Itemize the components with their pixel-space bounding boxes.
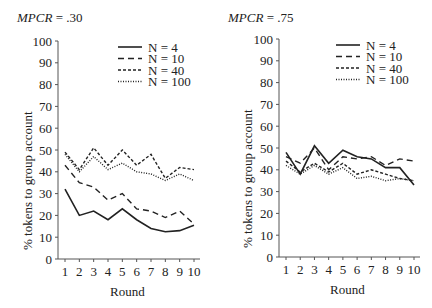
series-line bbox=[65, 189, 194, 232]
y-axis-title: % tokens to group account bbox=[20, 111, 36, 250]
y-tick-label: 40 bbox=[39, 164, 52, 179]
y-tick-label: 0 bbox=[267, 250, 274, 265]
x-tick-label: 3 bbox=[311, 262, 318, 277]
chart-panel-mpcr-75: MPCR = .75 01020304050607080901001234567… bbox=[216, 0, 432, 308]
x-tick-label: 5 bbox=[119, 264, 126, 279]
x-tick-label: 4 bbox=[105, 264, 112, 279]
y-tick-label: 60 bbox=[260, 119, 273, 134]
y-tick-label: 80 bbox=[260, 75, 273, 90]
x-tick-label: 10 bbox=[188, 264, 201, 279]
y-tick-label: 50 bbox=[260, 141, 273, 156]
y-tick-label: 0 bbox=[46, 252, 53, 267]
y-tick-label: 50 bbox=[39, 143, 52, 158]
x-tick-label: 6 bbox=[133, 264, 140, 279]
y-tick-label: 100 bbox=[33, 34, 53, 49]
y-tick-label: 90 bbox=[39, 55, 52, 70]
y-tick-label: 10 bbox=[39, 230, 52, 245]
series-line bbox=[286, 148, 414, 170]
x-tick-label: 3 bbox=[90, 264, 97, 279]
x-axis-title: Round bbox=[110, 284, 145, 300]
x-tick-label: 8 bbox=[162, 264, 169, 279]
y-tick-label: 20 bbox=[39, 208, 52, 223]
series-line bbox=[65, 154, 194, 180]
y-tick-label: 60 bbox=[39, 121, 52, 136]
y-tick-label: 100 bbox=[254, 32, 274, 47]
x-tick-label: 5 bbox=[340, 262, 347, 277]
series-group bbox=[65, 148, 194, 232]
x-tick-label: 4 bbox=[325, 262, 332, 277]
x-tick-label: 8 bbox=[382, 262, 389, 277]
y-tick-label: 70 bbox=[39, 99, 52, 114]
x-tick-label: 1 bbox=[283, 262, 290, 277]
x-tick-label: 9 bbox=[397, 262, 404, 277]
x-tick-label: 10 bbox=[408, 262, 421, 277]
x-tick-label: 7 bbox=[148, 264, 155, 279]
series-group bbox=[286, 146, 414, 185]
series-line bbox=[65, 148, 194, 179]
y-tick-label: 40 bbox=[260, 162, 273, 177]
y-tick-label: 10 bbox=[260, 228, 273, 243]
y-tick-label: 20 bbox=[260, 206, 273, 221]
y-axis-title: % tokens to group account bbox=[240, 109, 256, 248]
x-axis-title: Round bbox=[330, 282, 365, 298]
x-tick-label: 2 bbox=[76, 264, 83, 279]
legend: N = 4N = 10N = 40N = 100 bbox=[336, 38, 409, 88]
y-tick-label: 70 bbox=[260, 97, 273, 112]
x-tick-label: 9 bbox=[176, 264, 183, 279]
x-tick-label: 1 bbox=[62, 264, 69, 279]
legend-label: N = 100 bbox=[148, 74, 191, 89]
chart-panel-mpcr-30: MPCR = .30 01020304050607080901001234567… bbox=[0, 0, 216, 308]
y-tick-label: 30 bbox=[39, 186, 52, 201]
legend-label: N = 100 bbox=[366, 72, 409, 87]
x-tick-label: 7 bbox=[368, 262, 375, 277]
y-tick-label: 80 bbox=[39, 77, 52, 92]
y-tick-label: 90 bbox=[260, 53, 273, 68]
x-tick-label: 2 bbox=[297, 262, 304, 277]
x-tick-label: 6 bbox=[354, 262, 361, 277]
y-tick-label: 30 bbox=[260, 184, 273, 199]
series-line bbox=[286, 146, 414, 185]
legend: N = 4N = 10N = 40N = 100 bbox=[118, 40, 191, 90]
